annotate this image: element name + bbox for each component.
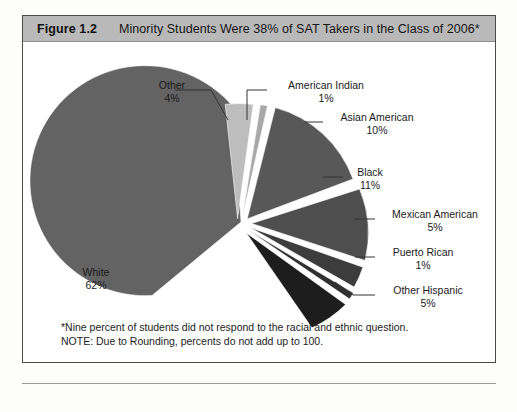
figure-header-bar: Figure 1.2 Minority Students Were 38% of… <box>23 16 495 42</box>
pie-label-mexican-american: Mexican American 5% <box>379 208 491 233</box>
pie-label-other-hispanic: Other Hispanic 5% <box>379 284 477 309</box>
pie-label-black-name: Black <box>347 166 393 179</box>
pie-label-asian-american-name: Asian American <box>327 111 427 124</box>
pie-label-mexican-american-value: 5% <box>379 221 491 234</box>
pie-label-american-indian-value: 1% <box>271 92 381 105</box>
pie-slice-white <box>30 66 241 296</box>
pie-label-puerto-rican: Puerto Rican 1% <box>379 246 467 271</box>
figure-box: Figure 1.2 Minority Students Were 38% of… <box>22 15 496 363</box>
pie-label-white-name: White <box>61 266 131 279</box>
pie-label-other-value: 4% <box>141 92 203 105</box>
pie-label-asian-american-value: 10% <box>327 124 427 137</box>
pie-label-asian-american: Asian American 10% <box>327 111 427 136</box>
pie-label-black-value: 11% <box>347 179 393 192</box>
footnote-line-1: *Nine percent of students did not respon… <box>61 320 408 334</box>
figure-number: Figure 1.2 <box>23 22 97 36</box>
pie-label-white-value: 62% <box>61 279 131 292</box>
page-divider-rule <box>22 383 496 384</box>
figure-footnotes: *Nine percent of students did not respon… <box>61 320 408 348</box>
pie-label-puerto-rican-value: 1% <box>379 259 467 272</box>
pie-label-other: Other 4% <box>141 79 203 104</box>
pie-label-other-name: Other <box>141 79 203 92</box>
pie-label-other-hispanic-value: 5% <box>379 297 477 310</box>
pie-label-puerto-rican-name: Puerto Rican <box>379 246 467 259</box>
pie-label-american-indian: American Indian 1% <box>271 79 381 104</box>
pie-label-black: Black 11% <box>347 166 393 191</box>
pie-label-american-indian-name: American Indian <box>271 79 381 92</box>
pie-label-mexican-american-name: Mexican American <box>379 208 491 221</box>
footnote-line-2: NOTE: Due to Rounding, percents do not a… <box>61 334 408 348</box>
pie-label-white: White 62% <box>61 266 131 291</box>
figure-title: Minority Students Were 38% of SAT Takers… <box>97 22 480 36</box>
pie-chart: Other 4% American Indian 1% Asian Americ… <box>23 42 495 338</box>
pie-label-other-hispanic-name: Other Hispanic <box>379 284 477 297</box>
